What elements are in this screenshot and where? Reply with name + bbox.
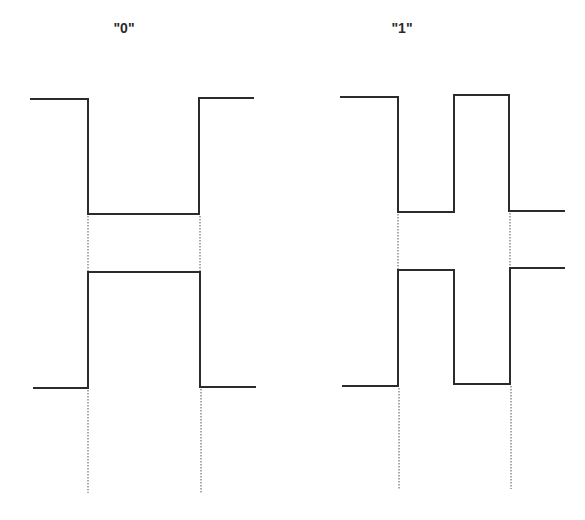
- zero-bottom-waveform: [33, 272, 256, 388]
- zero-transition-guides: [88, 216, 201, 493]
- symbol-zero-waveforms: [30, 98, 256, 493]
- symbol-one-waveforms: [340, 95, 565, 490]
- zero-top-waveform: [30, 98, 254, 214]
- one-top-waveform: [340, 95, 565, 212]
- one-bottom-waveform: [342, 268, 565, 386]
- waveform-diagram: [0, 0, 585, 520]
